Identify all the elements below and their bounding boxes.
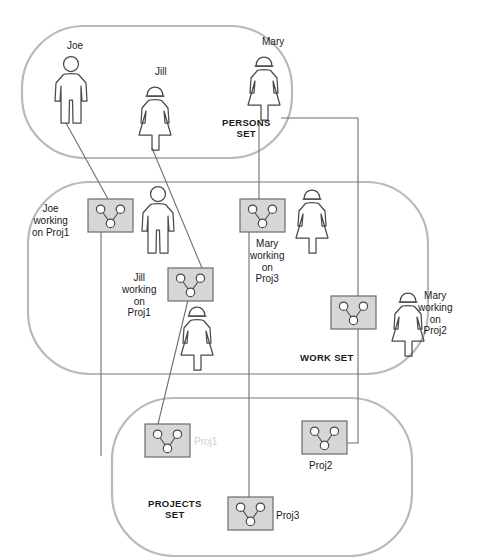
person-label-mary: Mary [262,36,284,48]
project-icon-jill-proj1[interactable] [168,268,213,301]
person-figure-female-jill [139,87,171,150]
person-figure-female-mary-proj3 [296,190,328,253]
project-icon-proj2[interactable] [302,421,347,454]
person-figure-male-joe-proj1 [142,187,174,254]
project-icon-joe-proj1[interactable] [88,199,133,232]
project-icon-proj1[interactable] [145,424,190,457]
project-icon-mary-proj3[interactable] [240,199,285,232]
person-figure-male-joe [55,57,87,124]
project-label-proj2: Proj2 [309,460,332,472]
person-label-joe: Joe [67,40,83,52]
person-figure-female-mary [248,57,280,120]
set-label-projects: PROJECTS SET [148,498,202,520]
person-label-jill: Jill [155,66,167,78]
set-label-persons: PERSONS SET [222,117,271,139]
work-label-joe-proj1: Joe working on Proj1 [32,203,69,238]
work-label-mary-proj2: Mary working on Proj2 [418,290,452,337]
work-label-jill-proj1: Jill working on Proj1 [122,272,156,319]
diagram-canvas: PERSONS SETWORK SETPROJECTS SETJoeJillMa… [0,0,487,560]
set-label-work: WORK SET [300,352,354,363]
person-figure-female-jill-proj1 [181,307,213,370]
project-label-proj1: Proj1 [194,436,217,448]
project-icon-mary-proj2[interactable] [331,296,376,329]
work-label-mary-proj3: Mary working on Proj3 [250,238,284,285]
project-icon-proj3[interactable] [228,497,273,530]
project-label-proj3: Proj3 [276,510,299,522]
nodes-layer [0,0,487,560]
